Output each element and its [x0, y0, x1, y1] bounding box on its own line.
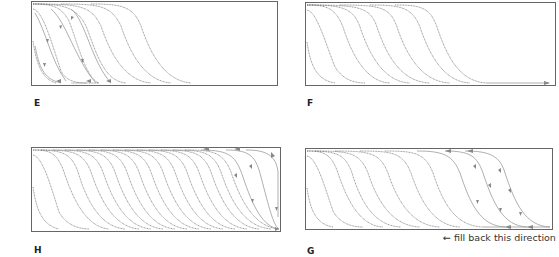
arrow-icons: [43, 16, 111, 83]
panel-h-label: H: [34, 245, 42, 255]
panel-e-label: E: [34, 98, 40, 108]
arrow-left-icon: ←: [443, 232, 451, 243]
panel-h-plot: [31, 147, 281, 232]
caption-text: fill back this direction: [454, 232, 556, 243]
arrow-right-icon: [544, 81, 550, 85]
panel-e: [31, 1, 278, 86]
panel-f: [305, 2, 556, 86]
panel-h: [31, 147, 281, 232]
panel-g-label: G: [307, 246, 314, 256]
panel-g: [305, 148, 553, 230]
panel-f-label: F: [307, 98, 313, 108]
panel-g-plot: [305, 148, 553, 230]
panel-f-plot: [305, 2, 556, 86]
arrow-icons: [203, 147, 279, 231]
fill-direction-caption: ← fill back this direction: [443, 232, 556, 243]
panel-e-plot: [31, 1, 278, 86]
